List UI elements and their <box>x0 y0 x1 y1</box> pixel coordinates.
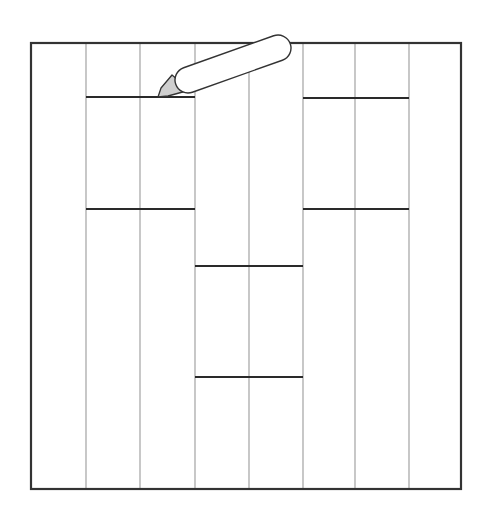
utility-knife-icon <box>158 31 295 97</box>
cutting-diagram <box>0 0 489 516</box>
cut-lines <box>86 97 409 377</box>
knife-handle-icon <box>171 31 294 96</box>
